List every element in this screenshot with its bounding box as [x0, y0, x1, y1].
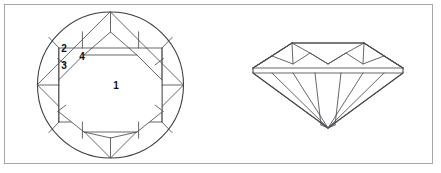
table-facet-fill	[59, 55, 162, 132]
crown-label-2: 2	[61, 43, 67, 54]
profile-view-group	[253, 43, 403, 128]
crown-view-group: 1 2 3 4	[38, 12, 184, 158]
crown-label-4: 4	[79, 51, 85, 62]
diamond-diagram-svg: 1 2 3 4	[0, 0, 441, 173]
diamond-figure: 1 2 3 4	[0, 0, 441, 173]
crown-label-1: 1	[113, 80, 119, 91]
crown-label-3: 3	[61, 60, 67, 71]
profile-silhouette	[253, 43, 403, 128]
